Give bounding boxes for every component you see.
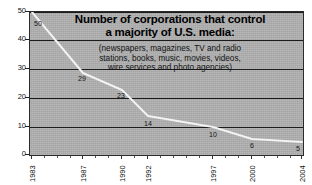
x-tick-mark-2004 [301,156,302,159]
x-minor-tick [95,156,96,158]
x-minor-tick [264,156,265,158]
x-minor-tick [108,156,109,158]
x-minor-tick [225,156,226,158]
x-tick-mark-1992 [147,156,148,159]
x-tick-mark-1990 [121,156,122,159]
x-axis: 1983 1987 1990 1992 1997 2000 2004 [0,0,312,185]
x-tick-label-2004: 2004 [298,165,307,182]
x-minor-tick [44,156,45,158]
x-tick-mark-2000 [251,156,252,159]
x-tick-label-2000: 2000 [248,165,257,182]
x-minor-tick [173,156,174,158]
x-minor-tick [290,156,291,158]
x-tick-label-1990: 1990 [118,165,127,182]
x-tick-label-1997: 1997 [209,165,218,182]
x-minor-tick [277,156,278,158]
x-tick-label-1983: 1983 [28,165,37,182]
x-minor-tick [238,156,239,158]
x-tick-label-1987: 1987 [79,165,88,182]
x-minor-tick [134,156,135,158]
x-minor-tick [199,156,200,158]
x-minor-tick [57,156,58,158]
x-tick-mark-1983 [31,156,32,159]
x-tick-label-1992: 1992 [144,165,153,182]
x-minor-tick [186,156,187,158]
x-minor-tick [160,156,161,158]
x-minor-tick [70,156,71,158]
x-tick-mark-1997 [212,156,213,159]
chart-screenshot: 50 29 23 14 10 6 5 Number of corporation… [0,0,312,185]
x-tick-mark-1987 [82,156,83,159]
